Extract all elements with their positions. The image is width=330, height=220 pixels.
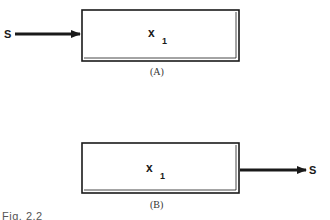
caption-b: (B) xyxy=(150,199,163,211)
box-a xyxy=(82,10,239,61)
caption-a: (A) xyxy=(150,66,164,78)
box-b-label: x xyxy=(146,161,153,175)
panel-b: x 1 S (B) xyxy=(82,143,316,211)
diagram-svg: S x 1 (A) x 1 S (B) xyxy=(0,0,330,220)
panel-a: S x 1 (A) xyxy=(4,10,239,78)
box-b-subscript: 1 xyxy=(160,171,165,181)
box-a-label: x xyxy=(148,26,155,40)
box-a-subscript: 1 xyxy=(162,36,167,46)
figure-caption: Fig. 2.2 xyxy=(2,210,43,220)
diagram-canvas: S x 1 (A) x 1 S (B) Fig. 2.2 xyxy=(0,0,330,220)
signal-label-a: S xyxy=(4,28,11,40)
signal-label-b: S xyxy=(309,164,316,176)
box-b xyxy=(82,143,239,193)
